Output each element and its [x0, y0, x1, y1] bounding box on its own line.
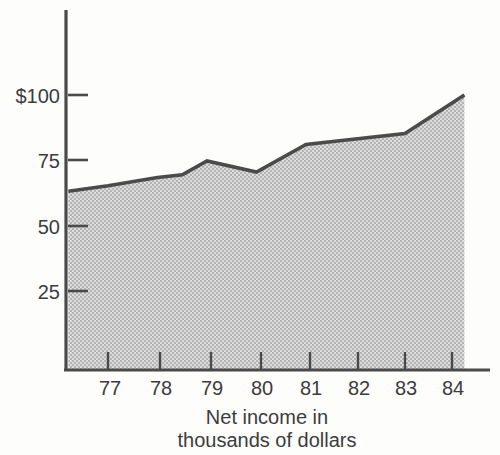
y-tick-label-100: $100: [16, 85, 61, 107]
area-chart: $100 75 50 25 77 78 79 80 81 82 83 84: [0, 0, 500, 455]
x-tick-label-77: 77: [99, 377, 121, 399]
x-tick-labels: 77 78 79 80 81 82 83 84: [99, 377, 464, 399]
x-tick-label-80: 80: [251, 377, 273, 399]
x-tick-label-84: 84: [442, 377, 464, 399]
x-tick-label-83: 83: [395, 377, 417, 399]
caption-line-1: Net income in: [206, 406, 328, 428]
area-fill-region: [68, 95, 464, 369]
x-tick-label-79: 79: [201, 377, 223, 399]
x-tick-label-81: 81: [300, 377, 322, 399]
chart-caption: Net income in thousands of dollars: [177, 406, 356, 451]
x-tick-label-78: 78: [150, 377, 172, 399]
y-tick-label-75: 75: [38, 150, 60, 172]
y-tick-labels: $100 75 50 25: [16, 85, 61, 303]
y-tick-label-25: 25: [38, 281, 60, 303]
y-tick-label-50: 50: [38, 216, 60, 238]
caption-line-2: thousands of dollars: [177, 429, 356, 451]
plot-area: [68, 95, 464, 369]
x-tick-label-82: 82: [348, 377, 370, 399]
chart-container: $100 75 50 25 77 78 79 80 81 82 83 84: [0, 0, 500, 455]
